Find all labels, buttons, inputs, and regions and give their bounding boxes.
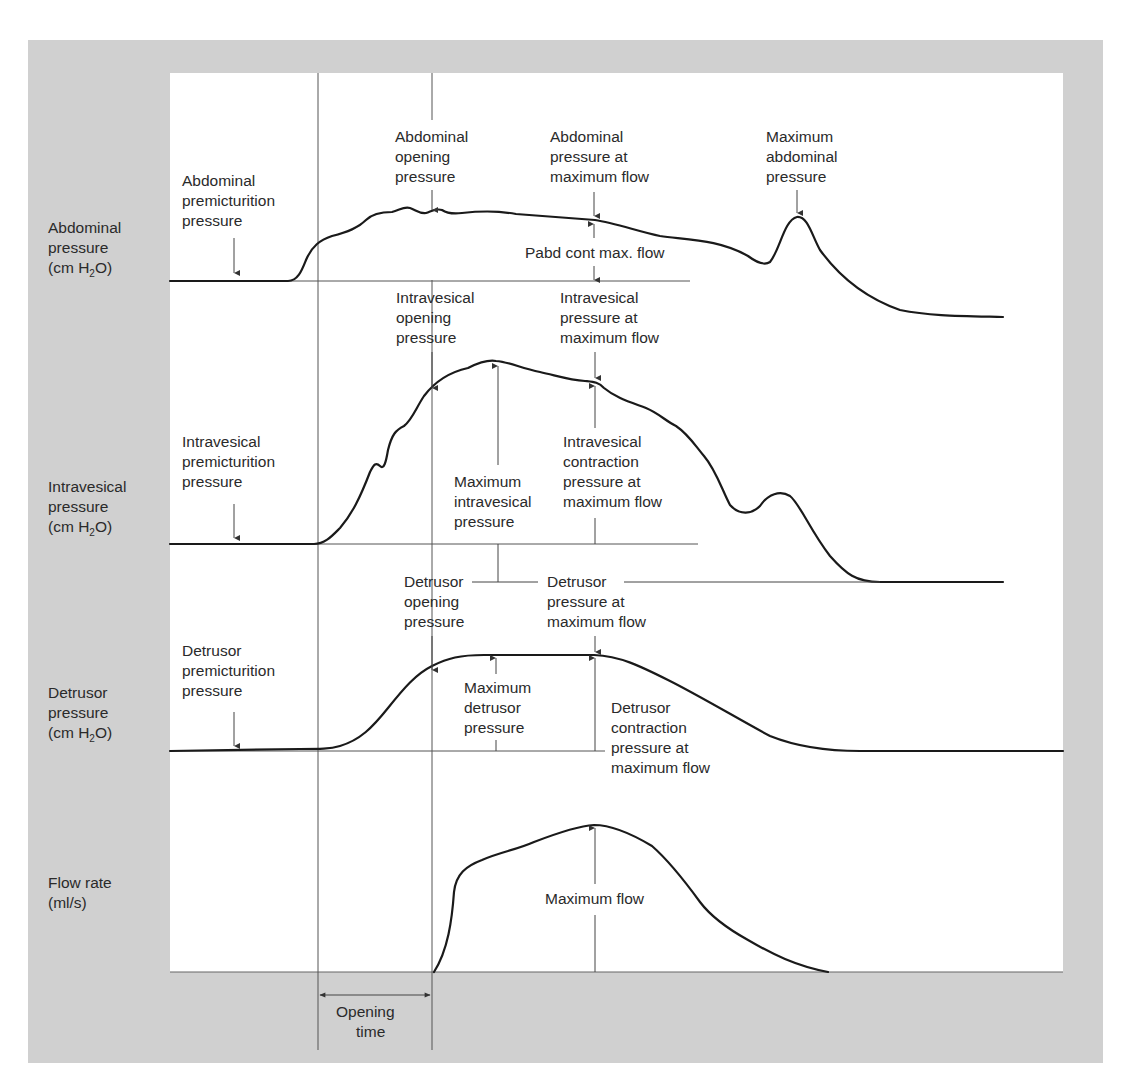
- svg-text:pressure: pressure: [454, 513, 514, 530]
- svg-text:Abdominal: Abdominal: [182, 172, 255, 189]
- svg-text:Maximum: Maximum: [454, 473, 521, 490]
- svg-text:opening: opening: [404, 593, 459, 610]
- svg-text:Pabd cont max. flow: Pabd cont max. flow: [525, 244, 665, 261]
- svg-text:Opening: Opening: [336, 1003, 395, 1020]
- svg-text:Detrusor: Detrusor: [48, 684, 107, 701]
- svg-text:contraction: contraction: [563, 453, 639, 470]
- svg-text:Flow rate: Flow rate: [48, 874, 112, 891]
- svg-text:pressure: pressure: [396, 329, 456, 346]
- svg-text:Maximum flow: Maximum flow: [545, 890, 645, 907]
- svg-text:pressure: pressure: [464, 719, 524, 736]
- svg-text:maximum flow: maximum flow: [550, 168, 650, 185]
- svg-text:Maximum: Maximum: [464, 679, 531, 696]
- svg-text:Detrusor: Detrusor: [611, 699, 670, 716]
- svg-text:Detrusor: Detrusor: [182, 642, 241, 659]
- svg-text:pressure: pressure: [404, 613, 464, 630]
- svg-text:premicturition: premicturition: [182, 662, 275, 679]
- svg-text:pressure at: pressure at: [560, 309, 638, 326]
- svg-text:Abdominal: Abdominal: [395, 128, 468, 145]
- svg-text:contraction: contraction: [611, 719, 687, 736]
- svg-text:pressure: pressure: [48, 704, 108, 721]
- svg-text:Abdominal: Abdominal: [48, 219, 121, 236]
- svg-text:maximum flow: maximum flow: [563, 493, 663, 510]
- svg-text:premicturition: premicturition: [182, 453, 275, 470]
- svg-text:maximum flow: maximum flow: [560, 329, 660, 346]
- svg-text:pressure: pressure: [48, 239, 108, 256]
- svg-text:Detrusor: Detrusor: [404, 573, 463, 590]
- svg-text:opening: opening: [396, 309, 451, 326]
- svg-text:opening: opening: [395, 148, 450, 165]
- svg-text:Intravesical: Intravesical: [48, 478, 126, 495]
- svg-text:Abdominal: Abdominal: [550, 128, 623, 145]
- plot-area: [170, 73, 1063, 972]
- svg-text:pressure at: pressure at: [611, 739, 689, 756]
- svg-text:pressure: pressure: [182, 682, 242, 699]
- svg-text:pressure at: pressure at: [563, 473, 641, 490]
- svg-text:pressure: pressure: [766, 168, 826, 185]
- svg-text:Detrusor: Detrusor: [547, 573, 606, 590]
- svg-text:Maximum: Maximum: [766, 128, 833, 145]
- svg-text:Intravesical: Intravesical: [560, 289, 638, 306]
- urodynamic-diagram: Abdominal pressure (cm H2O) Intravesical…: [0, 0, 1133, 1088]
- svg-text:pressure: pressure: [395, 168, 455, 185]
- svg-text:Intravesical: Intravesical: [563, 433, 641, 450]
- svg-text:maximum flow: maximum flow: [611, 759, 711, 776]
- svg-text:(ml/s): (ml/s): [48, 894, 87, 911]
- svg-text:abdominal: abdominal: [766, 148, 838, 165]
- svg-text:detrusor: detrusor: [464, 699, 521, 716]
- svg-text:pressure: pressure: [182, 212, 242, 229]
- svg-text:premicturition: premicturition: [182, 192, 275, 209]
- svg-text:intravesical: intravesical: [454, 493, 532, 510]
- row-label-detrusor: Detrusor pressure (cm H2O): [48, 684, 112, 744]
- svg-text:pressure at: pressure at: [550, 148, 628, 165]
- svg-text:pressure: pressure: [182, 473, 242, 490]
- svg-text:pressure: pressure: [48, 498, 108, 515]
- svg-text:maximum flow: maximum flow: [547, 613, 647, 630]
- svg-text:Intravesical: Intravesical: [182, 433, 260, 450]
- svg-text:Intravesical: Intravesical: [396, 289, 474, 306]
- svg-text:pressure at: pressure at: [547, 593, 625, 610]
- svg-text:time: time: [356, 1023, 385, 1040]
